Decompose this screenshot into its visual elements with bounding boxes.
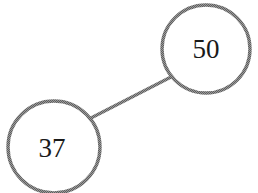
node-37: 37 (8, 101, 100, 193)
node-label: 50 (193, 34, 220, 64)
node-label: 37 (39, 133, 66, 163)
tree-diagram: 50 37 (0, 0, 258, 193)
edge-50-37 (89, 77, 171, 119)
node-50: 50 (162, 5, 250, 93)
